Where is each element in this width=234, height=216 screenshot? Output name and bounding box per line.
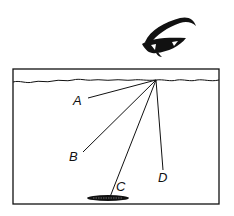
label-c: C bbox=[116, 180, 125, 193]
coin-icon bbox=[87, 195, 129, 201]
label-d: D bbox=[158, 171, 167, 184]
label-b: B bbox=[69, 150, 78, 163]
water-surface bbox=[13, 79, 219, 82]
ray-a bbox=[88, 80, 156, 98]
eye-icon bbox=[142, 17, 196, 57]
label-a: A bbox=[73, 94, 82, 107]
ray-b bbox=[83, 80, 156, 152]
ray-d bbox=[156, 80, 163, 170]
diagram-canvas: A B C D bbox=[0, 0, 234, 216]
